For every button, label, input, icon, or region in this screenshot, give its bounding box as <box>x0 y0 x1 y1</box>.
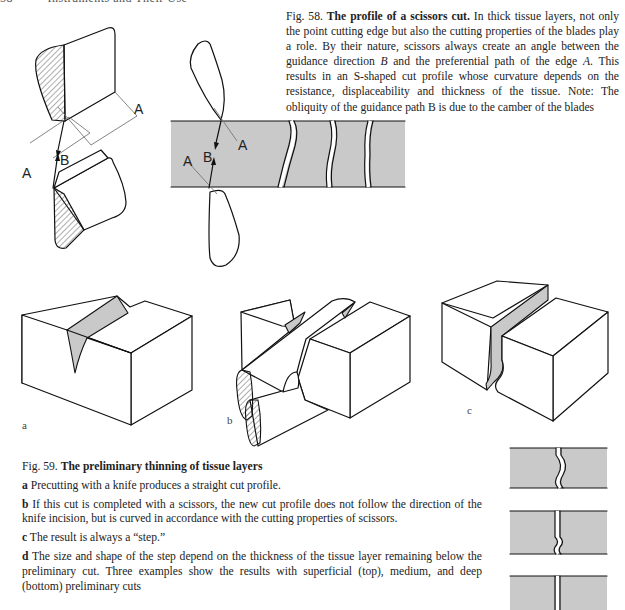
page-number: 58 <box>0 0 44 6</box>
fig59-item-d: d The size and shape of the step depend … <box>22 550 482 594</box>
fig59b-block <box>190 295 430 455</box>
running-title: Instruments and Their Use <box>48 0 188 5</box>
fig59-item-b: b If this cut is completed with a scisso… <box>22 498 482 528</box>
fig59-label: Fig. 59. <box>22 460 58 473</box>
panel-label-c: c <box>467 404 472 416</box>
label-b: B <box>60 152 69 168</box>
fig58-blade-diagram: A B A <box>0 20 150 270</box>
label-a-right: A <box>134 101 144 117</box>
panel-label-b: b <box>227 414 233 426</box>
fig59c-block <box>410 280 625 440</box>
fig59-caption: Fig. 59. The preliminary thinning of tis… <box>22 460 482 598</box>
fig59-item-a: a Precutting with a knife produces a str… <box>22 479 482 494</box>
label-a-lower: A <box>183 153 193 169</box>
fig59a-block <box>0 295 200 435</box>
fig58-tissue-profile: A B A <box>150 20 430 280</box>
label-a-upper: A <box>238 137 248 153</box>
panel-label-a: a <box>22 419 27 431</box>
fig59-title: The preliminary thinning of tissue layer… <box>61 460 263 473</box>
fig59-heading: Fig. 59. The preliminary thinning of tis… <box>22 460 482 475</box>
fig59d-profiles <box>510 440 620 610</box>
fig59-item-c: c The result is always a “step.” <box>22 531 482 546</box>
running-header: 58 Instruments and Their Use <box>0 0 187 6</box>
label-b-center: B <box>203 149 212 165</box>
label-a-left: A <box>22 165 32 181</box>
